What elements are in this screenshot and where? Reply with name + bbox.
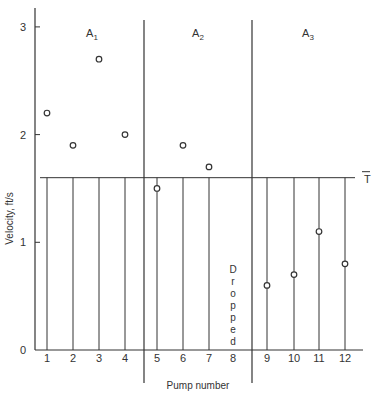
data-point bbox=[96, 56, 102, 62]
labels: Dropped bbox=[229, 264, 236, 347]
velocity-chart: 0123Velocity, ft/s123456789101112Pump nu… bbox=[0, 0, 378, 393]
dropped-annotation: d bbox=[230, 336, 236, 347]
dropped-annotation: r bbox=[231, 276, 235, 287]
x-tick-label: 4 bbox=[122, 352, 128, 364]
data-point bbox=[316, 229, 322, 235]
dropped-annotation: e bbox=[230, 324, 236, 335]
region-label: A3 bbox=[302, 27, 314, 42]
x-tick-label: 3 bbox=[96, 352, 102, 364]
x-tick-label: 10 bbox=[288, 352, 300, 364]
data-point bbox=[342, 261, 348, 267]
data-point bbox=[70, 143, 76, 149]
threshold-label: T bbox=[364, 173, 371, 185]
x-tick-label: 1 bbox=[44, 352, 50, 364]
x-tick-label: 11 bbox=[313, 352, 324, 364]
region-label: A1 bbox=[86, 27, 98, 42]
x-tick-label: 12 bbox=[339, 352, 351, 364]
y-tick-label: 0 bbox=[20, 344, 26, 356]
x-tick-label: 9 bbox=[264, 352, 270, 364]
dropped-annotation: p bbox=[230, 300, 236, 311]
data-point bbox=[122, 132, 128, 138]
data-points bbox=[44, 56, 348, 288]
data-point bbox=[264, 283, 270, 289]
dropped-annotation: p bbox=[230, 312, 236, 323]
x-tick-label: 6 bbox=[180, 352, 186, 364]
y-axis-title: Velocity, ft/s bbox=[4, 192, 15, 245]
pump-lines bbox=[47, 178, 345, 350]
data-point bbox=[206, 164, 212, 170]
data-point bbox=[44, 110, 50, 116]
data-point bbox=[154, 186, 160, 192]
x-axis-title: Pump number bbox=[167, 380, 230, 391]
data-point bbox=[291, 272, 297, 278]
region-label: A2 bbox=[192, 27, 204, 42]
y-tick-label: 1 bbox=[20, 236, 26, 248]
y-tick-label: 2 bbox=[20, 129, 26, 141]
x-tick-label: 2 bbox=[70, 352, 76, 364]
y-tick-label: 3 bbox=[20, 21, 26, 33]
x-tick-label: 5 bbox=[154, 352, 160, 364]
data-point bbox=[180, 143, 186, 149]
region-dividers: A1A2A3T bbox=[40, 20, 371, 383]
dropped-annotation: o bbox=[230, 288, 236, 299]
x-tick-label: 7 bbox=[206, 352, 212, 364]
dropped-annotation: D bbox=[229, 264, 236, 275]
x-tick-label: 8 bbox=[230, 352, 236, 364]
